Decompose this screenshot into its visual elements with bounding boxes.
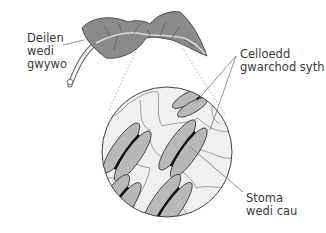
- magnified-epidermis: [90, 85, 232, 233]
- label-wilted-leaf-line3: gwywo: [27, 58, 67, 71]
- wilted-leaf: [67, 12, 207, 85]
- label-guard-cells: Celloedd gwarchod syth: [240, 48, 324, 74]
- label-guard-cells-line2: gwarchod syth: [240, 61, 324, 74]
- label-wilted-leaf: Deilen wedi gwywo: [27, 32, 67, 71]
- label-closed-stoma-line2: wedi cau: [246, 205, 297, 218]
- label-closed-stoma: Stoma wedi cau: [246, 192, 297, 218]
